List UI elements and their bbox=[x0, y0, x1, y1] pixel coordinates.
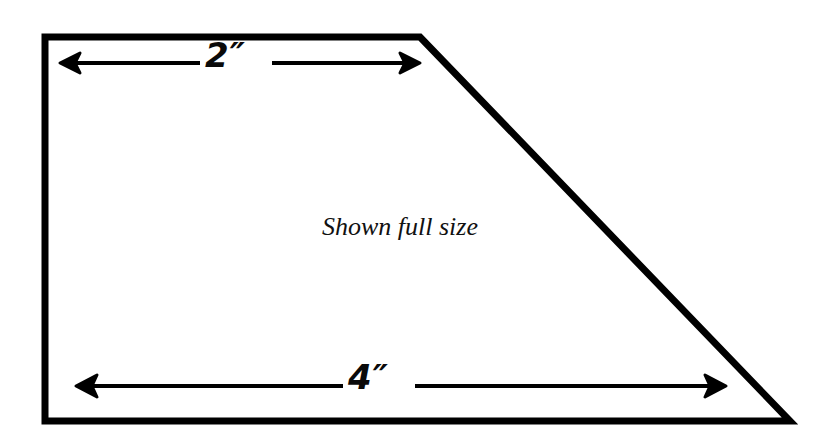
figure-caption: Shown full size bbox=[45, 212, 755, 242]
dimension-label-top: 2″ bbox=[205, 38, 246, 72]
figure-canvas: 2″ 4″ Shown full size bbox=[0, 0, 838, 446]
dimension-label-bottom: 4″ bbox=[348, 360, 389, 394]
